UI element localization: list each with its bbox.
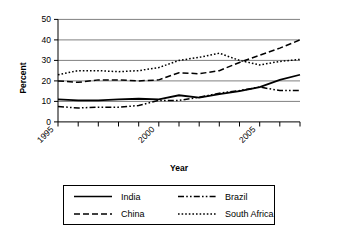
chart-container: Percent 0 10 20 30 40 50 <box>0 0 338 235</box>
y-axis-ticks: 0 10 20 30 40 50 <box>42 14 58 127</box>
x-tick-label-1995: 1995 <box>35 124 56 145</box>
y-axis-title: Percent <box>18 62 28 93</box>
legend-label-south-africa: South Africa <box>225 209 274 219</box>
series-line-brazil <box>58 87 300 108</box>
legend-label-india: India <box>121 192 141 202</box>
y-tick-label-50: 50 <box>42 14 52 24</box>
y-tick-label-40: 40 <box>42 35 52 45</box>
x-tick-label-2000: 2000 <box>136 124 157 145</box>
legend: India Brazil China South Africa <box>64 186 275 225</box>
x-axis-tick-labels: 1995 2000 2005 <box>35 124 258 145</box>
x-tick-label-2005: 2005 <box>237 124 258 145</box>
x-axis-title-label: Year <box>170 163 189 173</box>
series-line-south-africa <box>58 53 300 75</box>
y-tick-label-20: 20 <box>42 76 52 86</box>
y-tick-label-10: 10 <box>42 96 52 106</box>
legend-label-brazil: Brazil <box>225 192 248 202</box>
line-chart: Percent 0 10 20 30 40 50 <box>0 0 338 235</box>
legend-label-china: China <box>121 209 145 219</box>
series-group <box>58 40 300 108</box>
y-tick-label-30: 30 <box>42 55 52 65</box>
y-axis-title-label: Percent <box>18 62 28 93</box>
x-axis-ticks <box>58 122 300 127</box>
